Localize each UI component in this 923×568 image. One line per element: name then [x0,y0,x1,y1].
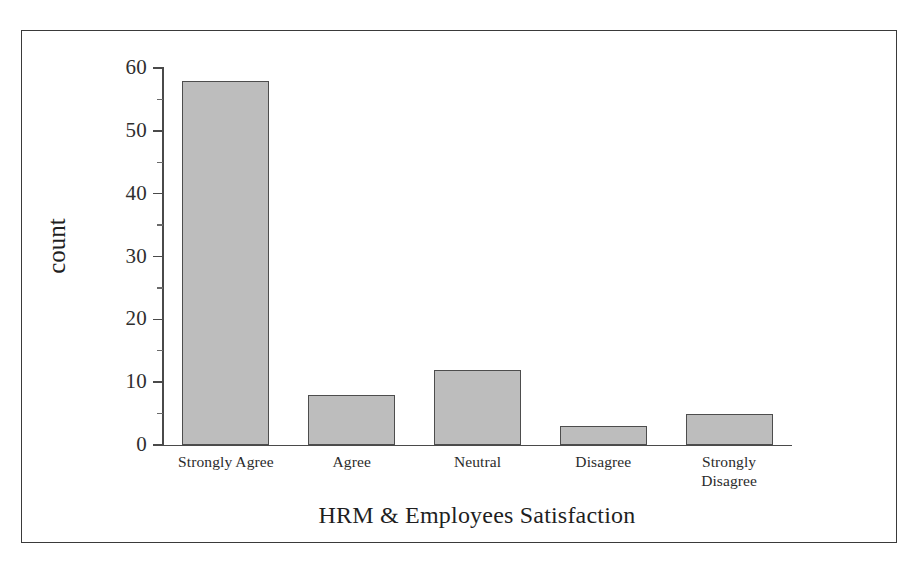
plot-area: 0102030405060 Strongly AgreeAgreeNeutral… [0,0,923,568]
bar [560,426,647,445]
y-axis-tick-label-text: 40 [103,183,147,204]
figure-canvas: 0102030405060 Strongly AgreeAgreeNeutral… [0,0,923,568]
bar [434,370,521,445]
y-axis-minor-tick [157,224,163,225]
y-axis-tick-label-text: 50 [103,120,147,141]
y-axis-minor-tick [157,99,163,100]
y-axis-tick-label-text: 30 [103,246,147,267]
bar [686,414,773,445]
y-axis-tick-label: 0 [100,434,147,455]
y-axis-title: count [43,176,71,316]
bar [308,395,395,445]
x-axis-tick-label: Strongly Disagree [679,452,779,490]
y-axis-tick [153,381,163,383]
y-axis-tick-label: 20 [100,308,147,329]
x-axis-title: HRM & Employees Satisfaction [162,501,792,529]
y-axis-tick-label: 30 [100,246,147,267]
y-axis-minor-tick [157,413,163,414]
y-axis-tick-label: 50 [100,120,147,141]
y-axis-tick-label: 10 [100,371,147,392]
y-axis-minor-tick [157,287,163,288]
y-axis-tick [153,444,163,446]
y-axis-tick [153,67,163,69]
y-axis-minor-tick [157,350,163,351]
y-axis-tick [153,256,163,258]
y-axis-tick [153,130,163,132]
y-axis-minor-tick [157,162,163,163]
x-axis-tick-label: Disagree [528,452,678,471]
y-axis-tick-label-text: 0 [103,434,147,455]
y-axis-tick-label-text: 10 [103,371,147,392]
y-axis-tick-label-text: 60 [103,57,147,78]
y-axis-tick [153,319,163,321]
y-axis-tick-label: 40 [100,183,147,204]
y-axis-tick [153,193,163,195]
y-axis-tick-label: 60 [100,57,147,78]
x-axis-tick-label: Strongly Agree [176,452,276,471]
y-axis-tick-label-text: 20 [103,308,147,329]
bar [182,81,269,445]
